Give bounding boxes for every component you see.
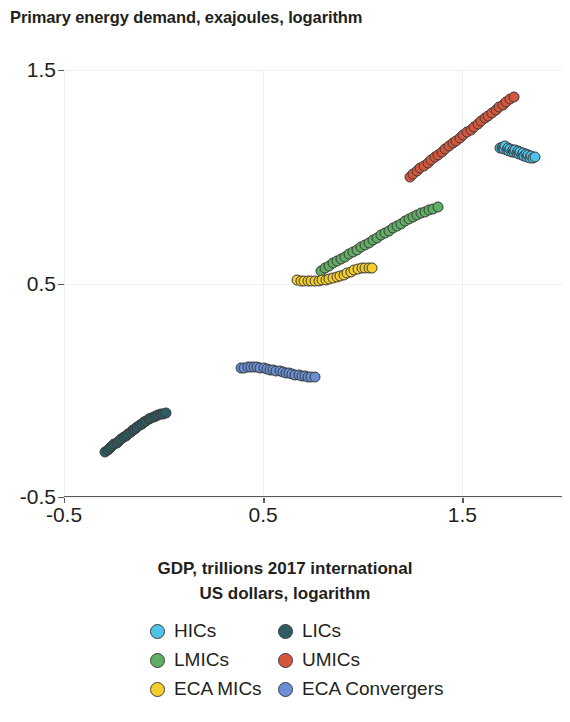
legend-swatch-icon [278,653,293,668]
x-axis-tick-labels: -0.50.51.5 [64,503,562,533]
data-point [508,91,519,102]
data-point [367,262,378,273]
page-title: Primary energy demand, exajoules, logari… [10,8,362,27]
data-point [309,372,320,383]
legend-swatch-icon [278,682,293,697]
data-point [160,408,171,419]
scatter-plot-area [64,70,562,497]
data-point [529,152,540,163]
x-axis-label: GDP, trillions 2017 international US dol… [0,556,570,606]
legend-item-label: HICs [174,620,216,642]
legend-item-label: LICs [302,620,341,642]
legend-item-label: UMICs [302,649,360,671]
legend-item-label: ECA MICs [174,678,262,700]
y-axis-tick [58,70,64,71]
legend-swatch-icon [150,624,165,639]
x-tick-label: 1.5 [448,503,477,527]
legend-swatch-icon [278,624,293,639]
y-gridline [64,497,562,498]
y-gridline [64,70,562,71]
x-axis-label-line2: US dollars, logarithm [0,581,570,606]
x-tick-label: 0.5 [249,503,278,527]
legend-item[interactable]: LMICs [150,649,278,671]
data-point [432,202,443,213]
legend-item[interactable]: ECA Convergers [278,678,460,700]
legend-item-label: ECA Convergers [302,678,444,700]
legend-item-label: LMICs [174,649,229,671]
legend: HICsLICsLMICsUMICsECA MICsECA Convergers [150,620,460,700]
legend-item[interactable]: ECA MICs [150,678,278,700]
y-axis-tick-labels: -0.50.51.5 [0,70,56,497]
legend-item[interactable]: HICs [150,620,278,642]
y-tick-label: 0.5 [27,272,56,296]
legend-swatch-icon [150,653,165,668]
legend-item[interactable]: LICs [278,620,460,642]
y-tick-label: 1.5 [27,58,56,82]
x-axis-label-line1: GDP, trillions 2017 international [0,556,570,581]
y-axis-tick [58,497,64,498]
legend-swatch-icon [150,682,165,697]
y-axis-tick [58,284,64,285]
x-tick-label: -0.5 [46,503,82,527]
legend-item[interactable]: UMICs [278,649,460,671]
